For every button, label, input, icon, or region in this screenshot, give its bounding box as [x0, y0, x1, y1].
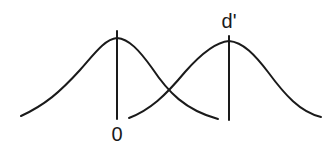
noise-mean-label: 0 — [111, 123, 122, 145]
noise-distribution-curve — [21, 38, 218, 119]
signal-distribution-curve — [129, 41, 321, 118]
sdt-diagram: 0 d' — [0, 0, 330, 153]
signal-mean-label: d' — [222, 10, 237, 32]
